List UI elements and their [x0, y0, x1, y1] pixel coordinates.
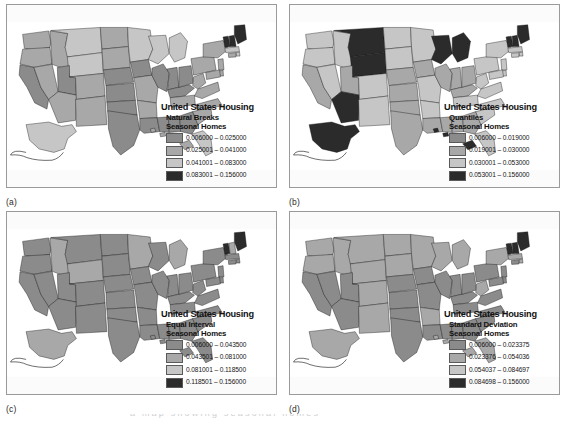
state-nm	[359, 96, 390, 126]
state-ia	[130, 60, 152, 78]
state-la	[140, 118, 160, 134]
legend-range-label: 0.025001 – 0.041000	[186, 147, 246, 154]
legend-class-row: 0.006000 – 0.043500	[166, 340, 271, 350]
state-ct	[228, 260, 236, 265]
state-or	[20, 47, 52, 67]
legend-title: United States Housing	[161, 310, 271, 319]
state-sd	[102, 47, 130, 70]
state-or	[20, 254, 52, 274]
panel-a-frame: United States Housing Natural Breaks Sea…	[6, 4, 277, 188]
legend-swatch	[449, 378, 466, 388]
legend-swatch	[449, 158, 466, 168]
state-wy	[350, 53, 386, 77]
legend-swatch	[449, 133, 466, 143]
state-ne	[386, 274, 416, 292]
state-wa	[23, 238, 51, 257]
legend-class-list: 0.006000 – 0.0250000.025001 – 0.0410000.…	[166, 133, 271, 181]
legend-class-row: 0.006000 – 0.019000	[449, 133, 554, 143]
state-nm	[76, 96, 107, 126]
panel-c: United States Housing Equal Interval Sea…	[0, 207, 283, 414]
state-wy	[350, 260, 386, 284]
legend-method: Natural Breaks	[166, 114, 271, 122]
state-mn	[411, 234, 436, 269]
panel-c-legend: United States Housing Equal Interval Sea…	[161, 310, 271, 390]
legend-class-row: 0.043501 – 0.081000	[166, 353, 271, 363]
state-nd	[100, 27, 128, 49]
legend-range-label: 0.043501 – 0.081000	[186, 354, 246, 361]
state-nj	[501, 59, 507, 70]
legend-class-row: 0.030001 – 0.053000	[449, 158, 554, 168]
state-sd	[102, 254, 130, 277]
legend-swatch	[166, 158, 183, 168]
state-nj	[218, 266, 224, 277]
legend-swatch	[166, 353, 183, 363]
legend-class-row: 0.006000 – 0.025000	[166, 133, 271, 143]
state-ct	[228, 53, 236, 58]
state-ia	[130, 267, 152, 285]
state-or	[303, 254, 335, 274]
legend-class-row: 0.019001 – 0.030000	[449, 146, 554, 156]
state-ri	[519, 259, 523, 263]
state-ri	[236, 52, 240, 56]
legend-class-row: 0.081001 – 0.118500	[166, 365, 271, 375]
legend-class-list: 0.006000 – 0.0435000.043501 – 0.0810000.…	[166, 340, 271, 388]
panel-label-a: (a)	[6, 197, 17, 207]
legend-range-label: 0.006000 – 0.043500	[186, 342, 246, 349]
panel-b-frame: United States Housing Quantiles Seasonal…	[289, 4, 560, 188]
state-wy	[67, 260, 103, 284]
legend-swatch	[449, 340, 466, 350]
legend-class-row: 0.023376 – 0.054036	[449, 353, 554, 363]
legend-range-label: 0.053001 – 0.156000	[469, 172, 529, 179]
state-ks	[389, 83, 419, 102]
legend-class-row: 0.041001 – 0.083000	[166, 158, 271, 168]
legend-class-row: 0.118501 – 0.156000	[166, 378, 271, 388]
legend-swatch	[449, 146, 466, 156]
legend-variable: Seasonal Homes	[449, 330, 554, 338]
panel-label-c: (c)	[6, 404, 17, 414]
legend-swatch	[166, 378, 183, 388]
legend-swatch	[166, 340, 183, 350]
legend-range-label: 0.006000 – 0.023375	[469, 342, 529, 349]
legend-class-list: 0.006000 – 0.0190000.019001 – 0.0300000.…	[449, 133, 554, 181]
state-nd	[383, 27, 411, 49]
state-ar	[137, 307, 157, 325]
state-ia	[413, 60, 435, 78]
legend-range-label: 0.006000 – 0.019000	[469, 135, 529, 142]
legend-range-label: 0.019001 – 0.030000	[469, 147, 529, 154]
state-sd	[385, 47, 413, 70]
panel-a: United States Housing Natural Breaks Sea…	[0, 0, 283, 207]
state-wa	[23, 31, 51, 50]
state-mn	[128, 27, 153, 62]
legend-range-label: 0.081001 – 0.118500	[186, 367, 246, 374]
state-ks	[106, 83, 136, 102]
legend-title: United States Housing	[444, 310, 554, 319]
panel-d-frame: United States Housing Standard Deviation…	[289, 211, 560, 395]
legend-class-list: 0.006000 – 0.0233750.023376 – 0.0540360.…	[449, 340, 554, 388]
clipped-caption-row: a map showing seasonal homes	[0, 414, 566, 423]
panel-label-d: (d)	[289, 404, 300, 414]
legend-range-label: 0.006000 – 0.025000	[186, 135, 246, 142]
legend-range-label: 0.041001 – 0.083000	[186, 160, 246, 167]
legend-method: Equal Interval	[166, 321, 271, 329]
legend-class-row: 0.025001 – 0.041000	[166, 146, 271, 156]
state-ne	[386, 67, 416, 85]
state-or	[303, 47, 335, 67]
figure-sheet: United States Housing Natural Breaks Sea…	[0, 0, 566, 423]
state-nm	[76, 303, 107, 333]
state-nd	[100, 234, 128, 256]
legend-class-row: 0.083001 – 0.156000	[166, 171, 271, 181]
state-wa	[306, 31, 334, 50]
legend-range-label: 0.118501 – 0.156000	[186, 379, 246, 386]
legend-method: Quantiles	[449, 114, 554, 122]
panel-d-legend: United States Housing Standard Deviation…	[444, 310, 554, 390]
state-ri	[236, 259, 240, 263]
state-wy	[67, 53, 103, 77]
state-ar	[420, 307, 440, 325]
legend-range-label: 0.084698 – 0.156000	[469, 379, 529, 386]
state-la	[423, 325, 443, 341]
clipped-caption-text: a map showing seasonal homes	[0, 414, 566, 418]
legend-class-row: 0.054037 – 0.084697	[449, 365, 554, 375]
state-nj	[218, 59, 224, 70]
state-ks	[389, 290, 419, 309]
state-sd	[385, 254, 413, 277]
